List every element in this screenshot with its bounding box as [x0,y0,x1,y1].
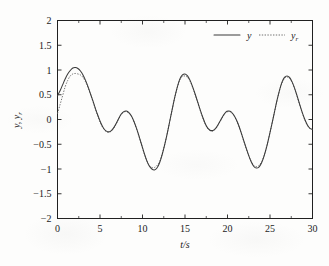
y-tick-label: 1.5 [39,40,52,51]
y-axis-title-sub: r [16,112,24,115]
plot-frame [58,21,313,219]
legend: y yr [214,30,298,43]
x-axis-ticks [58,21,313,219]
legend-label-y: y [246,30,252,41]
y-tick-label: −1.5 [33,188,51,199]
x-tick-label: 20 [223,223,233,234]
x-tick-label: 30 [308,223,318,234]
chart-page: −2−1.5−1−0.500.511.52 051015202530 t/s y… [0,0,329,266]
x-tick-label: 25 [265,223,275,234]
x-tick-label: 5 [98,223,103,234]
y-tick-label: 0 [47,114,52,125]
y-tick-label: 0.5 [39,89,52,100]
y-axis-title: y, yr [11,112,24,129]
legend-label-yr: yr [290,30,298,43]
x-tick-label: 0 [55,223,60,234]
line-chart: −2−1.5−1−0.500.511.52 051015202530 t/s y… [0,0,329,266]
series-line-y [58,67,313,170]
x-tick-label: 10 [138,223,148,234]
x-axis-title: t/s [180,239,190,250]
y-axis-tick-labels: −2−1.5−1−0.500.511.52 [33,15,51,224]
y-tick-label: −2 [41,213,52,224]
y-tick-label: −1 [41,164,52,175]
y-tick-label: −0.5 [33,139,51,150]
series-line-y-r [58,73,313,167]
y-tick-label: 1 [47,65,52,76]
y-tick-label: 2 [47,15,52,26]
y-axis-ticks [58,21,313,219]
data-series-group [58,67,313,170]
x-axis-tick-labels: 051015202530 [55,223,318,234]
x-tick-label: 15 [180,223,190,234]
